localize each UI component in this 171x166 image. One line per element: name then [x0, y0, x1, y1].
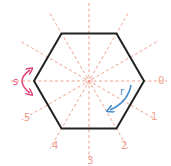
reflection-label: s: [13, 76, 18, 87]
rotation-label: r: [120, 86, 125, 97]
axis-label-5: 5: [24, 112, 30, 123]
hexagon-symmetry-diagram: r s 012345: [0, 0, 171, 166]
axis-label-3: 3: [87, 155, 93, 166]
axis-label-4: 4: [52, 140, 58, 151]
axis-label-2: 2: [121, 140, 127, 151]
axis-label-0: 0: [158, 75, 164, 86]
axis-label-1: 1: [151, 111, 157, 122]
diagram-canvas: r s 012345: [0, 0, 171, 166]
axis-labels: 012345: [24, 75, 164, 166]
